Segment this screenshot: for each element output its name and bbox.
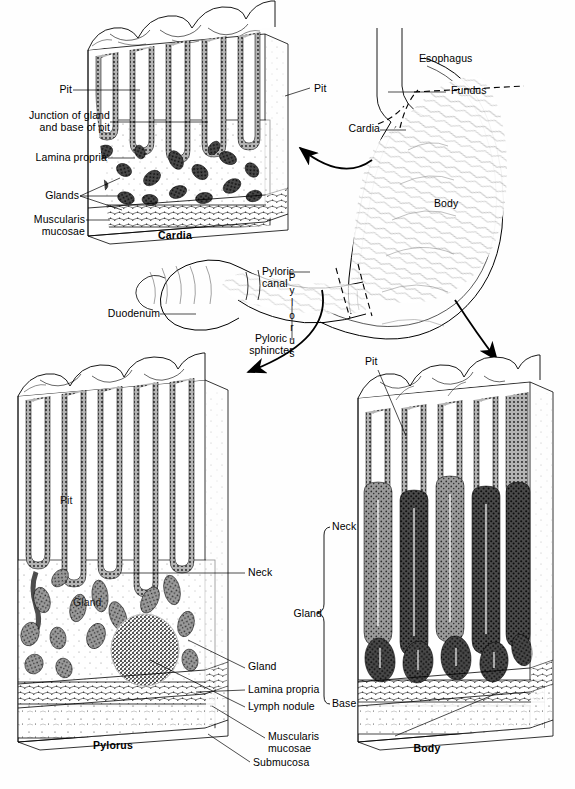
label-pylorus-submucosa: Submucosa xyxy=(253,757,309,769)
label-cardia-muscularis-mucosae: Muscularis mucosae xyxy=(0,214,85,237)
label-body-pit: Pit xyxy=(365,356,378,368)
caption-pylorus: Pylorus xyxy=(78,739,148,751)
label-cardia-lamina-propria: Lamina propria xyxy=(0,152,107,164)
label-cardia-pit-right: Pit xyxy=(314,83,327,95)
label-cardia-junction: Junction of gland and base of pit xyxy=(0,110,110,133)
label-pyloric-canal: Pyloric canal xyxy=(262,266,294,289)
label-cardia-glands: Glands xyxy=(0,190,79,202)
figure-root: Pit Junction of gland and base of pit La… xyxy=(0,0,575,789)
label-body-neck: Neck xyxy=(332,521,356,533)
label-pylorus-gland: Gland xyxy=(248,661,277,673)
label-body-gland: Gland xyxy=(278,608,322,620)
label-pylorus-lymph-nodule: Lymph nodule xyxy=(248,701,315,713)
label-cardia-region: Cardia xyxy=(310,123,380,135)
label-cardia-pit-left: Pit xyxy=(0,84,72,96)
label-fundus: Fundus xyxy=(451,85,487,97)
label-pylorus-pit: Pit xyxy=(60,495,73,507)
label-pylorus-neck: Neck xyxy=(248,567,272,579)
label-duodenum: Duodenum xyxy=(60,308,160,320)
label-body-base: Base xyxy=(332,698,356,710)
label-pylorus-muscularis-mucosae: Muscularis mucosae xyxy=(268,731,319,754)
caption-cardia: Cardia xyxy=(140,229,210,241)
caption-body: Body xyxy=(392,742,462,754)
label-pylorus-lamina-propria: Lamina propria xyxy=(248,684,319,696)
label-body-region: Body xyxy=(434,198,458,210)
label-esophagus: Esophagus xyxy=(419,53,472,65)
label-pyloric-sphincter: Pyloric sphincter xyxy=(236,333,306,356)
pylorus-block xyxy=(15,353,228,750)
label-pylorus-gland-inner: Gland xyxy=(73,597,102,609)
body-block xyxy=(355,355,553,750)
